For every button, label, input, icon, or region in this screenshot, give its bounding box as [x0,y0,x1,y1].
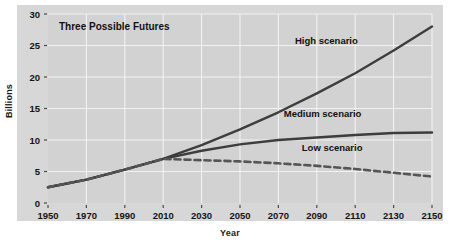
x-tick-label: 1950 [37,210,58,221]
x-tick-label: 1970 [76,210,97,221]
x-tick-label: 1990 [114,210,135,221]
series-annotation: Low scenario [302,142,363,153]
y-tick-label: 5 [35,166,41,177]
y-tick-label: 10 [29,135,40,146]
plot-title: Three Possible Futures [59,21,170,32]
series-annotation: Medium scenario [284,108,362,119]
x-tick-label: 2050 [229,210,250,221]
series-annotation: High scenario [295,35,358,46]
x-tick-label: 2010 [153,210,174,221]
y-tick-label: 0 [35,198,40,209]
x-tick-label: 2030 [191,210,212,221]
y-tick-label: 20 [29,72,40,83]
line-chart: 051015202530 195019701990201020302050207… [0,0,461,248]
x-tick-label: 2070 [268,210,289,221]
x-tick-label: 2130 [383,210,404,221]
chart-container: Billions Year 051015202530 1950197019902… [0,0,461,248]
y-tick-label: 30 [29,9,40,20]
y-tick-label: 25 [29,40,40,51]
x-tick-label: 2110 [345,210,366,221]
x-tick-label: 2090 [306,210,327,221]
x-axis-title: Year [180,228,280,238]
y-tick-label: 15 [29,103,40,114]
y-axis-title: Billions [4,76,14,126]
x-tick-label: 2150 [421,210,442,221]
